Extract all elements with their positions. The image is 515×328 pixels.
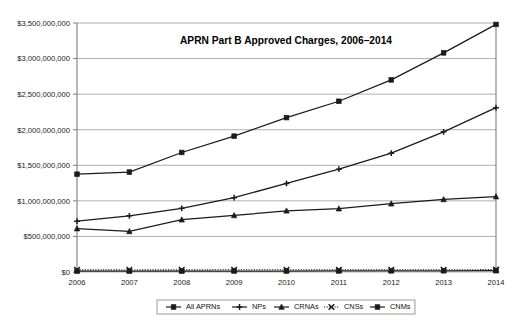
data-point: [441, 51, 446, 56]
legend-item-label: NPs: [252, 302, 266, 311]
data-point: [127, 269, 132, 274]
x-axis-tick-labels: 200620072008200920102011201220132014: [69, 278, 505, 287]
x-axis-tick-label: 2006: [69, 278, 86, 287]
data-point: [494, 22, 499, 27]
x-axis-tick-label: 2009: [226, 278, 243, 287]
data-point: [337, 99, 342, 104]
y-axis-tick-labels: $0$500,000,000$1,000,000,000$1,500,000,0…: [17, 19, 70, 277]
x-axis-tick-label: 2007: [121, 278, 138, 287]
gridlines: [77, 23, 496, 272]
data-point: [284, 115, 289, 120]
y-axis-tick-label: $2,000,000,000: [17, 126, 70, 135]
chart-title: APRN Part B Approved Charges, 2006–2014: [180, 35, 392, 46]
data-point: [75, 269, 80, 274]
data-point: [284, 269, 289, 274]
x-axis-tick-label: 2014: [488, 278, 505, 287]
x-axis-tick-label: 2013: [435, 278, 452, 287]
y-axis-tick-label: $2,500,000,000: [17, 90, 70, 99]
legend-item-label: CNSs: [344, 302, 364, 311]
y-axis-tick-label: $500,000,000: [24, 232, 70, 241]
series-nps: [74, 105, 499, 224]
chart-container: $0$500,000,000$1,000,000,000$1,500,000,0…: [0, 0, 515, 328]
series-cnms: [75, 268, 499, 273]
line-chart: $0$500,000,000$1,000,000,000$1,500,000,0…: [0, 0, 515, 328]
data-point: [388, 150, 394, 156]
data-point: [179, 205, 185, 211]
data-point: [284, 181, 290, 187]
series-line: [77, 24, 496, 174]
data-point: [493, 105, 499, 111]
y-axis-tick-label: $3,000,000,000: [17, 54, 70, 63]
data-point: [389, 269, 394, 274]
data-point: [441, 268, 446, 273]
legend-item-label: All APRNs: [186, 302, 220, 311]
data-point: [75, 172, 80, 177]
data-point: [494, 268, 499, 273]
data-point: [389, 78, 394, 83]
y-axis-tick-label: $0: [62, 268, 70, 277]
data-point: [74, 218, 80, 224]
x-axis-tick-label: 2011: [331, 278, 347, 287]
legend-swatch-marker: [171, 305, 176, 310]
legend-item-label: CRNAs: [294, 302, 319, 311]
y-axis-tick-label: $1,500,000,000: [17, 161, 70, 170]
data-point: [232, 134, 237, 139]
legend-item-label: CNMs: [390, 302, 411, 311]
chart-legend: All APRNsNPsCRNAsCNSsCNMs: [157, 300, 415, 314]
series-line: [77, 108, 496, 221]
data-series: [74, 22, 499, 273]
x-axis-tick-label: 2012: [383, 278, 400, 287]
series-crnas: [74, 194, 498, 234]
data-point: [232, 269, 237, 274]
data-point: [336, 166, 342, 172]
data-point: [126, 213, 132, 219]
data-point: [179, 269, 184, 274]
x-axis-tick-label: 2010: [278, 278, 295, 287]
y-axis-tick-marks: [73, 23, 77, 272]
x-axis-tick-label: 2008: [173, 278, 190, 287]
data-point: [127, 170, 132, 175]
data-point: [231, 195, 237, 201]
legend-swatch-marker: [375, 305, 380, 310]
data-point: [179, 150, 184, 155]
y-axis-tick-label: $3,500,000,000: [17, 19, 70, 28]
data-point: [337, 269, 342, 274]
y-axis-tick-label: $1,000,000,000: [17, 197, 70, 206]
